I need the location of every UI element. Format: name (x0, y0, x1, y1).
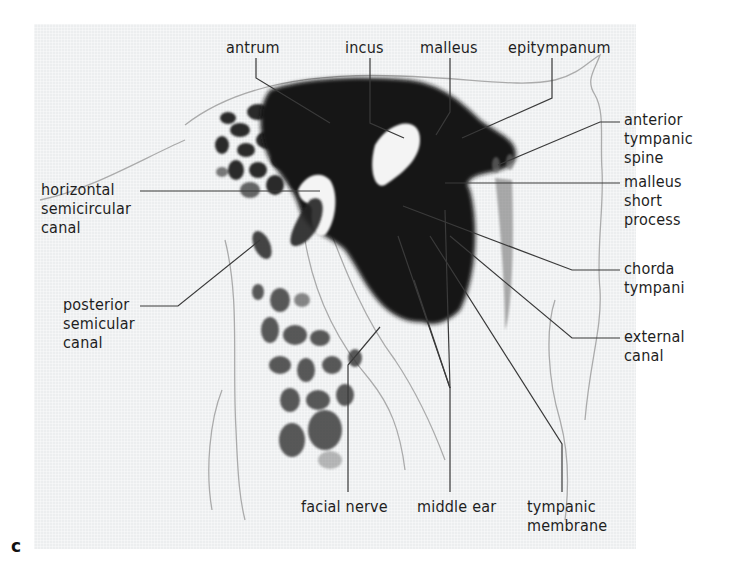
semicircular-canal-shapes (248, 198, 322, 262)
label-line: external (624, 327, 685, 346)
label-line: canal (41, 218, 131, 237)
label-line: short (624, 191, 682, 210)
label-line: tympani (624, 278, 685, 297)
dark-tissue-mass (261, 78, 516, 324)
label-posterior-semicular-canal: posterior semicular canal (63, 295, 135, 352)
label-line: canal (624, 346, 685, 365)
label-line: process (624, 210, 682, 229)
label-line: malleus (624, 172, 682, 191)
label-chorda-tympani: chorda tympani (624, 259, 685, 297)
label-external-canal: external canal (624, 327, 685, 365)
label-line: posterior (63, 295, 135, 314)
label-line: semicircular (41, 199, 131, 218)
label-malleus-short-process: malleus short process (624, 172, 682, 229)
label-line: anterior (624, 110, 693, 129)
label-line: tympanic (527, 497, 607, 516)
label-line: chorda (624, 259, 685, 278)
external-canal-shading (492, 154, 514, 330)
label-malleus: malleus (420, 38, 478, 57)
label-line: horizontal (41, 180, 131, 199)
leader-posterior-semicular-canal (140, 240, 260, 306)
label-anterior-tympanic-spine: anterior tympanic spine (624, 110, 693, 167)
label-line: tympanic (624, 129, 693, 148)
label-tympanic-membrane: tympanic membrane (527, 497, 607, 535)
label-line: spine (624, 148, 693, 167)
lower-air-cells (252, 284, 362, 469)
label-line: semicular (63, 314, 135, 333)
label-incus: incus (345, 38, 384, 57)
label-middle-ear: middle ear (417, 497, 496, 516)
label-horizontal-semicircular-canal: horizontal semicircular canal (41, 180, 131, 237)
panel-letter: c (11, 536, 21, 556)
label-epitympanum: epitympanum (508, 38, 611, 57)
label-antrum: antrum (226, 38, 280, 57)
label-facial-nerve: facial nerve (301, 497, 388, 516)
label-line: membrane (527, 516, 607, 535)
label-line: canal (63, 333, 135, 352)
leader-external-canal (450, 236, 620, 338)
